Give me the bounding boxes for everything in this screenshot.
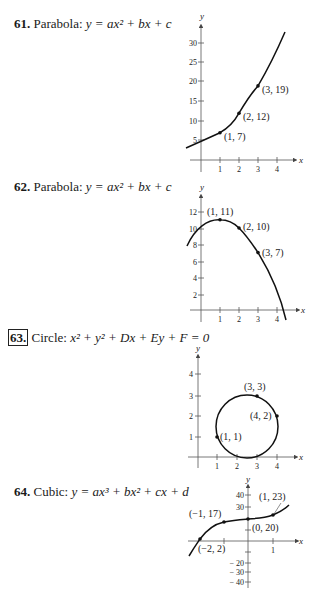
svg-text:(0, 20): (0, 20) xyxy=(252,522,279,534)
svg-text:y: y xyxy=(199,11,204,21)
svg-text:12: 12 xyxy=(189,208,197,217)
svg-text:y: y xyxy=(195,343,200,353)
svg-text:4: 4 xyxy=(275,315,279,324)
svg-text:3: 3 xyxy=(255,462,259,471)
svg-text:3: 3 xyxy=(256,165,260,174)
svg-text:x: x xyxy=(298,452,303,462)
svg-text:1: 1 xyxy=(218,315,222,324)
svg-text:2: 2 xyxy=(237,165,241,174)
svg-text:4: 4 xyxy=(189,370,193,379)
svg-text:40: 40 xyxy=(236,491,244,500)
svg-text:− 30: − 30 xyxy=(229,568,244,577)
svg-text:6: 6 xyxy=(193,258,197,267)
svg-text:(3, 3): (3, 3) xyxy=(244,381,266,393)
svg-text:20: 20 xyxy=(189,77,197,86)
graph-63-text: y x 1 2 3 4 1 2 3 4 (1, 1) (3, 3) (4, 2) xyxy=(189,343,303,471)
graph-61 xyxy=(190,26,295,172)
svg-text:(3, 19): (3, 19) xyxy=(262,84,289,96)
svg-text:3: 3 xyxy=(256,315,260,324)
svg-text:3: 3 xyxy=(189,392,193,401)
svg-text:(2, 12): (2, 12) xyxy=(243,111,270,123)
graph-63 xyxy=(188,356,296,468)
svg-text:(2, 10): (2, 10) xyxy=(243,221,270,233)
svg-text:5: 5 xyxy=(193,136,197,145)
svg-text:y: y xyxy=(245,474,250,484)
svg-text:30: 30 xyxy=(189,39,197,48)
svg-text:− 40: − 40 xyxy=(229,578,244,587)
svg-text:(4, 2): (4, 2) xyxy=(250,410,272,422)
svg-text:(−2, 2): (−2, 2) xyxy=(198,543,225,555)
circle-curve-63 xyxy=(216,395,278,458)
svg-text:4: 4 xyxy=(275,462,279,471)
svg-text:(1, 11): (1, 11) xyxy=(207,206,233,218)
graph-64-text: y x 40 30 − 20 − 30 − 40 1 (−1, 17) (1, … xyxy=(189,474,303,587)
svg-text:y: y xyxy=(199,182,204,192)
svg-text:(−1, 17): (−1, 17) xyxy=(189,508,221,520)
parabola-curve-62 xyxy=(187,220,286,320)
graphs-canvas: y x 5 10 15 20 25 30 1 2 3 4 (1, 7) (2, … xyxy=(0,0,311,594)
svg-text:2: 2 xyxy=(237,315,241,324)
svg-text:(3, 7): (3, 7) xyxy=(262,247,284,259)
svg-text:− 20: − 20 xyxy=(229,559,244,568)
svg-text:15: 15 xyxy=(189,97,197,106)
svg-text:x: x xyxy=(300,305,305,315)
svg-text:(1, 7): (1, 7) xyxy=(224,131,246,143)
svg-text:25: 25 xyxy=(189,58,197,67)
svg-text:(1, 23): (1, 23) xyxy=(259,491,286,503)
svg-text:2: 2 xyxy=(235,462,239,471)
svg-text:1: 1 xyxy=(218,165,222,174)
svg-text:1: 1 xyxy=(271,546,275,555)
svg-text:30: 30 xyxy=(236,503,244,512)
svg-text:(1, 1): (1, 1) xyxy=(220,431,242,443)
svg-text:10: 10 xyxy=(189,225,197,234)
svg-text:x: x xyxy=(298,155,303,165)
svg-text:2: 2 xyxy=(189,412,193,421)
svg-text:4: 4 xyxy=(193,274,197,283)
svg-text:x: x xyxy=(298,536,303,546)
graph-62-text: y x 2 4 6 8 10 12 1 2 3 4 (1, 11) (2, 10… xyxy=(189,182,305,324)
svg-text:1: 1 xyxy=(215,462,219,471)
svg-text:1: 1 xyxy=(189,433,193,442)
svg-text:2: 2 xyxy=(193,291,197,300)
svg-text:4: 4 xyxy=(275,165,279,174)
svg-text:10: 10 xyxy=(189,117,197,126)
graph-61-text: y x 5 10 15 20 25 30 1 2 3 4 (1, 7) (2, … xyxy=(189,11,303,174)
svg-text:8: 8 xyxy=(193,241,197,250)
